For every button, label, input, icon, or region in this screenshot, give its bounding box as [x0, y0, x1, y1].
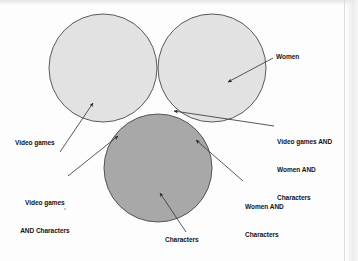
circle-video-games [49, 14, 157, 122]
label-line: Video games AND [277, 138, 332, 147]
label-women-and-characters: Women AND Characters [245, 184, 284, 259]
label-video-games-and-women-and-characters: Video games AND Women AND Characters [277, 119, 332, 222]
label-line: Characters [277, 194, 332, 203]
circle-characters [104, 114, 212, 222]
label-line: AND Characters [20, 227, 69, 236]
label-line: Characters [245, 231, 284, 240]
label-video-games: Video games [15, 139, 55, 148]
label-women: Women [276, 53, 299, 62]
label-line: Women AND [277, 166, 332, 175]
label-characters: Characters [165, 236, 199, 245]
label-line: Video games [20, 199, 69, 208]
venn-diagram-figure: Women Video games AND Women AND Characte… [0, 0, 358, 261]
circle-women [158, 14, 266, 122]
label-video-games-and-characters: Video games AND Characters [20, 180, 69, 255]
label-line: Women AND [245, 203, 284, 212]
